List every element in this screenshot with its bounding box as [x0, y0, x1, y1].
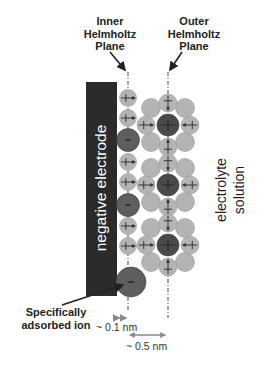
water-molecule	[142, 219, 161, 238]
ohp-label: Outer Helmholtz Plane	[166, 15, 222, 53]
electrolyte-label: electrolyte solution	[212, 145, 248, 235]
ohp-distance-label: ~ 0.5 nm	[126, 340, 167, 352]
cation	[157, 174, 179, 196]
ihp-label: Inner Helmholtz Plane	[82, 15, 138, 53]
water-molecule	[159, 154, 177, 172]
solvated-cation-cluster	[137, 154, 199, 216]
water-molecule	[159, 138, 177, 156]
ohp-pointer-arrow	[170, 52, 182, 70]
water-molecule	[142, 253, 161, 272]
adsorbed-anion	[117, 194, 140, 217]
cation	[157, 234, 179, 256]
water-molecule	[176, 253, 195, 272]
water-molecule	[142, 99, 161, 118]
water-molecule	[159, 214, 177, 232]
water-molecule	[137, 236, 155, 254]
electrode-label: negative electrode	[91, 103, 111, 273]
water-molecule	[159, 94, 177, 112]
water-molecule	[181, 176, 199, 194]
solvated-cation-cluster	[137, 214, 199, 276]
water-molecule	[142, 159, 161, 178]
water-molecule	[181, 116, 199, 134]
water-molecule	[159, 198, 177, 216]
ihp-pointer-arrow	[110, 52, 125, 70]
adsorbed-anion	[117, 129, 140, 152]
water-molecule	[120, 110, 137, 127]
water-molecule	[181, 236, 199, 254]
water-molecule	[142, 193, 161, 212]
solvated-cations	[137, 94, 199, 276]
cation	[157, 114, 179, 136]
water-molecule	[159, 258, 177, 276]
water-molecule	[120, 174, 137, 191]
water-molecule	[120, 218, 137, 235]
specifically-adsorbed-ion	[116, 267, 146, 297]
water-molecule	[176, 133, 195, 152]
water-molecule	[120, 90, 137, 107]
water-molecule	[142, 133, 161, 152]
solvated-cation-cluster	[137, 94, 199, 156]
ihp-distance-label: ~ 0.1 nm	[96, 321, 137, 333]
adsorbed-ion-label: Specifically adsorbed ion	[16, 306, 96, 331]
water-molecule	[176, 219, 195, 238]
water-molecule	[176, 159, 195, 178]
water-molecule	[120, 154, 137, 171]
water-molecule	[120, 238, 137, 255]
water-molecule	[137, 176, 155, 194]
water-molecule	[137, 116, 155, 134]
water-molecule	[176, 193, 195, 212]
water-molecule	[176, 99, 195, 118]
